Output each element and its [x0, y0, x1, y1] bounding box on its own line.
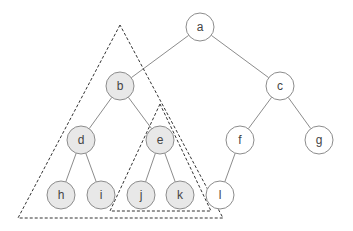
node-c: c [266, 72, 294, 100]
edge-a-c [211, 35, 268, 77]
node-label: l [219, 188, 222, 202]
edge-b-e [128, 97, 151, 129]
node-label: j [139, 188, 143, 202]
edge-d-i [86, 153, 96, 182]
node-a: a [186, 13, 214, 41]
node-i: i [87, 181, 115, 209]
node-l: l [206, 181, 234, 209]
node-label: i [100, 188, 103, 202]
node-e: e [146, 126, 174, 154]
subtree-e-outline [110, 104, 211, 211]
node-label: k [177, 188, 184, 202]
node-label: g [316, 133, 323, 147]
edge-a-b [131, 35, 188, 77]
node-b: b [106, 72, 134, 100]
edge-c-f [248, 97, 271, 129]
edge-f-l [225, 153, 235, 182]
node-d: d [67, 126, 95, 154]
tree-nodes: abcdefghijkl [47, 13, 333, 209]
node-f: f [226, 126, 254, 154]
node-label: b [117, 79, 124, 93]
node-j: j [127, 181, 155, 209]
node-label: d [78, 133, 85, 147]
node-label: a [197, 20, 204, 34]
node-label: e [157, 133, 164, 147]
node-g: g [305, 126, 333, 154]
edge-b-d [89, 97, 112, 128]
edge-d-h [66, 153, 76, 182]
node-label: h [58, 188, 65, 202]
edge-c-g [288, 97, 311, 128]
edge-e-j [146, 153, 156, 182]
node-label: c [277, 79, 283, 93]
node-h: h [47, 181, 75, 209]
tree-diagram: abcdefghijkl [0, 0, 353, 231]
edge-e-k [165, 153, 175, 182]
node-k: k [166, 181, 194, 209]
